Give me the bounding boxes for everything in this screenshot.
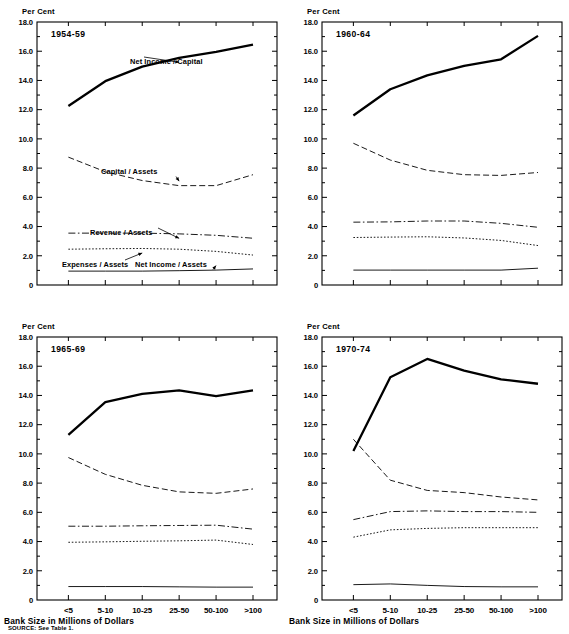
series-line-revenue-assets [353, 511, 538, 520]
y-tick-label: 8.0 [23, 479, 33, 488]
y-axis: 02.04.06.08.010.012.014.016.018.0 [19, 333, 277, 605]
annotation-arrow-revenue-assets [158, 228, 179, 238]
y-tick-label: 18.0 [19, 18, 33, 27]
series-group [68, 45, 253, 271]
y-tick-label: 6.0 [23, 508, 33, 517]
y-tick-label: 0 [314, 596, 318, 605]
chart-panel-1960-64: Per Cent02.04.06.08.010.012.014.016.018.… [285, 0, 569, 314]
y-tick-label: 0 [314, 281, 318, 290]
y-axis-unit-label: Per Cent [22, 322, 55, 331]
y-tick-label: 6.0 [308, 193, 318, 202]
y-tick-label: 12.0 [304, 420, 318, 429]
x-tick-label: 50-100 [489, 606, 514, 615]
series-line-net-income-capital [68, 390, 253, 435]
x-tick-label: 5-10 [97, 606, 113, 615]
y-axis: 02.04.06.08.010.012.014.016.018.0 [304, 333, 562, 605]
y-tick-label: 4.0 [23, 537, 33, 546]
x-axis: <55-1010-2525-5050-100>100 [64, 337, 263, 615]
y-tick-label: 14.0 [19, 391, 33, 400]
x-axis: <55-1010-2525-5050-100>100 [349, 337, 548, 615]
series-line-revenue-assets [68, 525, 253, 529]
y-tick-label: 0 [29, 281, 33, 290]
y-tick-label: 16.0 [304, 47, 318, 56]
series-line-net-income-assets [353, 584, 538, 587]
y-tick-label: 2.0 [308, 567, 318, 576]
series-line-net-income-capital [68, 45, 253, 106]
y-tick-label: 6.0 [23, 193, 33, 202]
series-line-net-income-assets [68, 587, 253, 588]
chart-svg: Per Cent02.04.06.08.010.012.014.016.018.… [0, 0, 284, 314]
x-tick-label: 10-25 [132, 606, 153, 615]
series-line-expenses-assets [353, 528, 538, 537]
annotation-arrow-capital-assets [176, 177, 180, 182]
y-tick-label: 10.0 [19, 135, 33, 144]
series-group [353, 36, 538, 270]
y-axis-unit-label: Per Cent [307, 7, 340, 16]
x-tick-label: 5-10 [382, 606, 398, 615]
y-tick-label: 2.0 [308, 252, 318, 261]
plot-frame [37, 337, 277, 600]
x-tick-label: >100 [244, 606, 262, 615]
y-tick-label: 10.0 [304, 135, 318, 144]
panel-period-label: 1954-59 [51, 29, 85, 39]
y-tick-label: 10.0 [19, 450, 33, 459]
y-tick-label: 4.0 [308, 222, 318, 231]
chart-panel-1970-74: Per Cent02.04.06.08.010.012.014.016.018.… [285, 315, 569, 629]
y-tick-label: 12.0 [19, 105, 33, 114]
series-line-capital-assets [68, 157, 253, 185]
y-tick-label: 18.0 [304, 18, 318, 27]
x-tick-label: <5 [349, 606, 359, 615]
y-tick-label: 12.0 [19, 420, 33, 429]
series-line-expenses-assets [68, 540, 253, 544]
series-line-net-income-assets [68, 269, 253, 271]
x-tick-label: <5 [64, 606, 74, 615]
series-line-expenses-assets [353, 237, 538, 246]
x-tick-label: >100 [529, 606, 547, 615]
annotation-label-net-income-capital: Net Income / Capital [130, 57, 203, 66]
y-tick-label: 16.0 [19, 47, 33, 56]
plot-frame [322, 22, 562, 285]
x-tick-label: 25-50 [169, 606, 190, 615]
annotation-label-expenses-assets: Expenses / Assets [62, 260, 128, 269]
y-axis: 02.04.06.08.010.012.014.016.018.0 [304, 18, 562, 290]
y-axis-unit-label: Per Cent [22, 7, 55, 16]
y-tick-label: 14.0 [304, 391, 318, 400]
y-tick-label: 14.0 [19, 76, 33, 85]
x-axis-title: Bank Size in Millions of Dollars [289, 616, 419, 626]
annotation-arrow-net-income-assets [212, 266, 216, 270]
series-line-net-income-capital [353, 36, 538, 116]
series-group [353, 359, 538, 587]
panel-period-label: 1970-74 [336, 344, 370, 354]
chart-svg: Per Cent02.04.06.08.010.012.014.016.018.… [285, 0, 569, 314]
y-axis-unit-label: Per Cent [307, 322, 340, 331]
y-tick-label: 14.0 [304, 76, 318, 85]
y-tick-label: 10.0 [304, 450, 318, 459]
y-tick-label: 0 [29, 596, 33, 605]
y-tick-label: 12.0 [304, 105, 318, 114]
y-tick-label: 16.0 [304, 362, 318, 371]
annotation-arrow-expenses-assets [125, 253, 142, 260]
y-tick-label: 16.0 [19, 362, 33, 371]
y-tick-label: 18.0 [304, 333, 318, 342]
x-axis [353, 22, 538, 285]
chart-panel-1954-59: Per Cent02.04.06.08.010.012.014.016.018.… [0, 0, 284, 314]
panel-period-label: 1960-64 [336, 29, 370, 39]
x-tick-label: 10-25 [417, 606, 438, 615]
y-tick-label: 6.0 [308, 508, 318, 517]
series-group [68, 390, 253, 587]
chart-panel-1965-69: Per Cent02.04.06.08.010.012.014.016.018.… [0, 315, 284, 629]
source-note-wrap: SOURCE: See Table 1. [8, 616, 74, 634]
y-tick-label: 8.0 [308, 479, 318, 488]
series-line-expenses-assets [68, 248, 253, 255]
y-tick-label: 8.0 [23, 164, 33, 173]
y-tick-label: 4.0 [23, 222, 33, 231]
y-tick-label: 4.0 [308, 537, 318, 546]
series-line-revenue-assets [353, 221, 538, 227]
annotation-label-revenue-assets: Revenue / Assets [90, 228, 153, 237]
series-line-net-income-assets [353, 268, 538, 270]
chart-svg: Per Cent02.04.06.08.010.012.014.016.018.… [285, 315, 569, 629]
annotation-label-net-income-assets: Net Income / Assets [135, 260, 207, 269]
series-line-capital-assets [68, 458, 253, 494]
y-tick-label: 2.0 [23, 252, 33, 261]
